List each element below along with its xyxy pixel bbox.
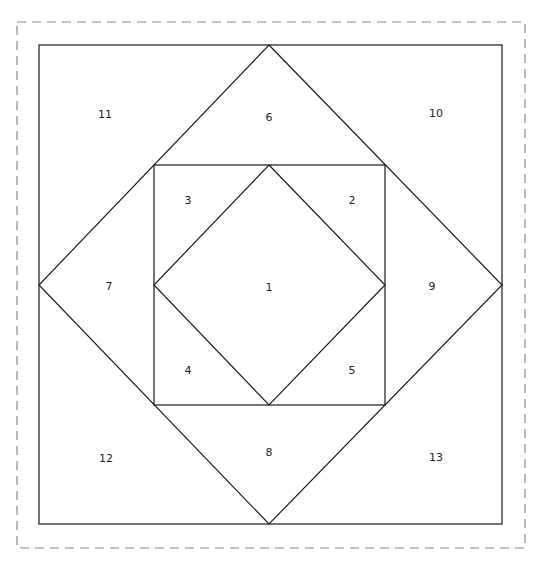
piece-label-5: 5	[349, 364, 356, 377]
piece-label-13: 13	[429, 451, 443, 464]
piece-label-12: 12	[99, 452, 113, 465]
piece-label-9: 9	[429, 280, 436, 293]
piece-labels: 12345678910111213	[98, 107, 443, 465]
quilt-block-diagram: 12345678910111213	[0, 0, 539, 565]
piece-label-11: 11	[98, 108, 112, 121]
piece-label-2: 2	[349, 194, 356, 207]
piece-label-7: 7	[106, 280, 113, 293]
piece-label-8: 8	[266, 446, 273, 459]
piece-label-10: 10	[429, 107, 443, 120]
piece-label-3: 3	[185, 194, 192, 207]
piece-label-1: 1	[266, 281, 273, 294]
piece-label-6: 6	[266, 111, 273, 124]
piece-label-4: 4	[185, 364, 192, 377]
